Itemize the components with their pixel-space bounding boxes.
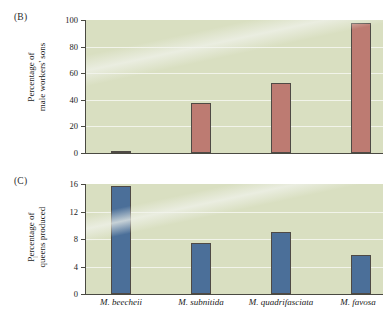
yticklabel-b-40: 40	[54, 95, 78, 105]
ytick-b-20	[81, 126, 85, 127]
yticklabel-b-0: 0	[54, 148, 78, 158]
yticklabel-c-8: 8	[54, 234, 78, 244]
gridline-b-20	[85, 126, 383, 127]
panel-b-y-axis	[85, 20, 86, 154]
gridline-b-80	[85, 47, 383, 48]
ytick-c-0	[81, 294, 85, 295]
scan-speck	[33, 256, 38, 258]
yticklabel-c-0: 0	[54, 289, 78, 299]
panel-c-plot-area	[85, 184, 383, 294]
panel-c-y-axis-title: Percentage of queens produced	[26, 177, 48, 297]
ytick-c-4	[81, 267, 85, 268]
bar-b-m-favosa	[351, 23, 371, 153]
panel-c: (C) Percentage of queens produced 16 12 …	[0, 166, 386, 325]
panel-b-y-axis-title: Percentage of male workers' sons	[26, 17, 48, 137]
panel-c-y-axis-title-line2: queens produced	[37, 177, 48, 297]
bar-c-m-favosa	[351, 255, 371, 294]
panel-c-y-axis	[85, 184, 86, 295]
panel-b-y-axis-title-line1: Percentage of	[26, 17, 37, 137]
bar-c-m-beecheii	[111, 186, 131, 294]
bar-b-m-subnitida	[191, 103, 211, 154]
yticklabel-b-20: 20	[54, 121, 78, 131]
panel-c-x-axis	[85, 294, 383, 295]
xticklabel-m-beecheii: M. beecheii	[100, 297, 142, 307]
bar-c-m-subnitida	[191, 243, 211, 294]
yticklabel-c-12: 12	[54, 207, 78, 217]
yticklabel-b-100: 100	[54, 15, 78, 25]
bar-b-m-quadrifasciata	[271, 83, 291, 154]
gridline-b-40	[85, 100, 383, 101]
xticklabel-m-favosa: M. favosa	[340, 297, 376, 307]
ytick-c-8	[81, 239, 85, 240]
yticklabel-c-16: 16	[54, 179, 78, 189]
gridline-b-60	[85, 73, 383, 74]
ytick-b-100	[81, 20, 85, 21]
panel-b-plot-area	[85, 20, 383, 153]
ytick-c-12	[81, 212, 85, 213]
xticklabel-m-quadrifasciata: M. quadrifasciata	[249, 297, 314, 307]
xticklabel-m-subnitida: M. subnitida	[178, 297, 224, 307]
ytick-c-16	[81, 184, 85, 185]
ytick-b-80	[81, 47, 85, 48]
figure-container: (B) Percentage of male workers' sons 100…	[0, 0, 386, 325]
panel-b-y-axis-title-line2: male workers' sons	[37, 17, 48, 137]
ytick-b-0	[81, 153, 85, 154]
panel-c-y-axis-title-line1: Percentage of	[26, 177, 37, 297]
yticklabel-b-80: 80	[54, 42, 78, 52]
ytick-b-40	[81, 100, 85, 101]
yticklabel-b-60: 60	[54, 68, 78, 78]
panel-b-x-axis	[85, 153, 383, 154]
ytick-b-60	[81, 73, 85, 74]
bar-c-m-quadrifasciata	[271, 232, 291, 294]
yticklabel-c-4: 4	[54, 262, 78, 272]
panel-b: (B) Percentage of male workers' sons 100…	[0, 0, 386, 170]
